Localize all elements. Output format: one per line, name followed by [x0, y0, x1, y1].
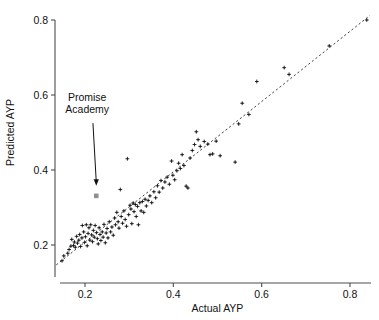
data-point-core [109, 221, 111, 223]
data-point-core [215, 140, 217, 142]
data-point-core [70, 245, 72, 247]
data-point-core [176, 170, 178, 172]
data-point-core [128, 214, 130, 216]
data-point [233, 160, 237, 164]
data-point-core [114, 217, 116, 219]
data-point-core [187, 187, 189, 189]
x-axis-title: Actual AYP [192, 302, 244, 314]
data-point-core [102, 236, 104, 238]
data-point-core [63, 255, 65, 257]
data-point [255, 80, 259, 84]
data-point [67, 248, 71, 252]
data-point-core [85, 236, 87, 238]
data-point [99, 239, 103, 243]
data-point [287, 72, 291, 76]
data-point-core [140, 210, 142, 212]
data-point-core [151, 202, 153, 204]
data-point [109, 230, 113, 234]
data-point-core [212, 153, 214, 155]
data-point-core [209, 154, 211, 156]
data-point-core [131, 223, 133, 225]
data-point-core [185, 185, 187, 187]
data-point [96, 242, 100, 246]
data-point [129, 207, 133, 211]
data-point [104, 231, 108, 235]
data-point-core [129, 205, 131, 207]
data-point-core [197, 139, 199, 141]
data-point [118, 188, 122, 192]
data-point-core [283, 67, 285, 69]
data-point [84, 223, 88, 227]
data-point-core [94, 225, 96, 227]
data-point [190, 149, 194, 153]
data-point-core [116, 212, 118, 214]
data-point-core [219, 155, 221, 157]
data-point [93, 224, 97, 228]
data-point-core [123, 210, 125, 212]
data-point-core [142, 201, 144, 203]
data-point-core [120, 216, 122, 218]
data-point-core [68, 249, 70, 251]
data-point [134, 215, 138, 219]
data-point [188, 156, 192, 160]
data-point-core [160, 180, 162, 182]
data-point-core [71, 239, 73, 241]
x-tick-label: 0.6 [254, 288, 269, 300]
data-point-core [67, 253, 69, 255]
data-point [144, 204, 148, 208]
data-point-core [91, 234, 93, 236]
scatter-chart-figure: PromiseAcademy 0.20.40.60.80.20.40.60.8 … [0, 0, 379, 320]
promise-academy-marker [94, 194, 99, 199]
data-point-core [61, 260, 63, 262]
data-point-core [115, 224, 117, 226]
x-tick-label: 0.4 [166, 288, 181, 300]
data-point-core [174, 179, 176, 181]
data-point-core [200, 146, 202, 148]
data-point-core [155, 197, 157, 199]
data-point-core [194, 144, 196, 146]
data-point [110, 225, 114, 229]
data-point [202, 140, 206, 144]
annotation-arrow-head [94, 179, 99, 186]
data-point-core [196, 131, 198, 133]
data-point [82, 230, 86, 234]
x-tick-label: 0.8 [343, 288, 358, 300]
data-point-core [256, 81, 258, 83]
data-point [193, 143, 197, 147]
data-point [126, 157, 130, 161]
data-point [106, 236, 110, 240]
data-point-core [127, 158, 128, 160]
data-point-core [204, 141, 206, 143]
data-point-core [133, 211, 135, 213]
data-point-core [146, 205, 148, 207]
data-points-group [60, 18, 369, 263]
data-point-core [122, 223, 124, 225]
data-point-core [106, 228, 108, 230]
data-point-core [94, 236, 96, 238]
data-point-core [166, 176, 168, 178]
data-point [86, 231, 90, 235]
data-point-core [180, 168, 182, 170]
data-point [98, 233, 102, 237]
data-point-core [96, 232, 98, 234]
data-point [80, 224, 84, 228]
data-point [194, 130, 198, 134]
promise-academy-annotation: PromiseAcademy [65, 91, 110, 186]
data-point-core [79, 234, 81, 236]
data-point-core [103, 224, 105, 226]
y-tick-label: 0.4 [33, 164, 48, 176]
data-point-core [73, 245, 75, 247]
data-point [157, 190, 161, 194]
data-point-core [93, 230, 95, 232]
data-point-core [88, 227, 90, 229]
data-point [130, 222, 134, 226]
axis-labels-group: Actual AYPPredicted AYP [4, 99, 243, 314]
data-point-core [169, 184, 171, 186]
data-point [111, 233, 115, 237]
data-point-core [248, 114, 250, 116]
data-point [119, 215, 123, 219]
data-point-core [181, 154, 183, 156]
data-point-core [192, 150, 194, 152]
data-point-core [135, 204, 137, 206]
data-point-core [118, 227, 120, 229]
